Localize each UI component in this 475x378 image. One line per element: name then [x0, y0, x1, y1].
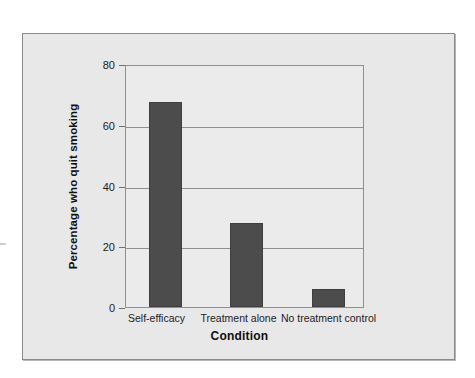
- bar-no-treatment-control: [312, 289, 345, 307]
- page-edge-artifact: [0, 243, 6, 245]
- x-tick-label-no-treatment-control: No treatment control: [247, 312, 410, 324]
- figure-frame: 80 60 40 20 0 Percentage who quit smokin…: [22, 33, 455, 360]
- bar-chart: 80 60 40 20 0 Percentage who quit smokin…: [23, 34, 456, 361]
- y-tick-mark-0: [119, 308, 125, 309]
- bar-treatment-alone: [230, 223, 263, 307]
- y-axis-title: Percentage who quit smoking: [67, 65, 85, 308]
- plot-area: [125, 65, 364, 308]
- x-axis-title: Condition: [23, 329, 456, 343]
- bar-self-efficacy: [149, 102, 182, 307]
